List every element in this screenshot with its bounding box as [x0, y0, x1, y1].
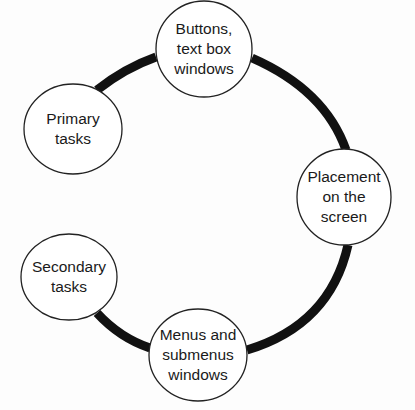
- node-buttons-label: Buttons, text box windows: [156, 1, 252, 97]
- arc-buttons-to-placement: [252, 58, 346, 150]
- node-primary-label: Primary tasks: [24, 84, 122, 174]
- node-placement-label: Placement on the screen: [297, 149, 391, 245]
- node-menus-label: Menus and submenus windows: [149, 309, 247, 401]
- arc-placement-to-menus: [247, 245, 348, 350]
- node-secondary-label: Secondary tasks: [21, 234, 117, 320]
- cycle-diagram: Buttons, text box windowsPrimary tasksPl…: [0, 0, 415, 410]
